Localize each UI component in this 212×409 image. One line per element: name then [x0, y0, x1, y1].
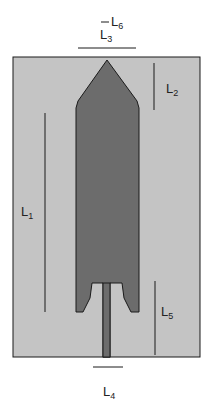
label-L4-sub: 4 [110, 391, 115, 401]
label-L1: L1 [21, 205, 33, 221]
label-L1-sub: 1 [28, 211, 33, 221]
label-L3: L3 [100, 28, 112, 44]
label-L5: L5 [161, 305, 173, 321]
label-L4: L4 [103, 385, 115, 401]
label-L5-sub: 5 [168, 311, 173, 321]
label-L3-sub: 3 [107, 34, 112, 44]
label-L6-sub: 6 [118, 21, 123, 31]
label-L2-sub: 2 [173, 88, 178, 98]
label-L6: L6 [111, 15, 123, 31]
label-L2: L2 [166, 82, 178, 98]
feed-line [103, 283, 110, 357]
